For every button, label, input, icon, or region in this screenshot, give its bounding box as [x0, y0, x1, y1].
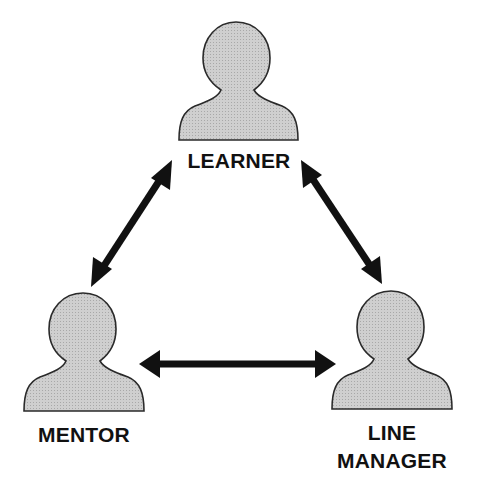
arrow-learner-line-manager: [301, 160, 382, 284]
learner-person-icon: [179, 22, 298, 140]
mentor-person-icon: [24, 293, 144, 411]
learner-label: LEARNER: [176, 149, 302, 173]
line-manager-label-line2: MANAGER: [330, 449, 454, 473]
mentor-label: MENTOR: [22, 423, 146, 447]
arrow-mentor-line-manager: [139, 350, 336, 378]
line-manager-label-line1: LINE: [330, 421, 454, 445]
arrow-learner-mentor: [91, 160, 172, 287]
diagram-canvas: [0, 0, 483, 490]
line-manager-person-icon: [332, 291, 452, 409]
